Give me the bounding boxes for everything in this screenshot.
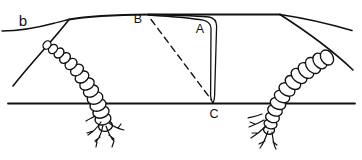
point-label-c: C [209,107,218,121]
figure-panel: b B A C [0,0,362,160]
panel-label: b [19,12,27,29]
point-label-a: A [196,22,205,36]
background [0,0,362,160]
diagram-svg: b B A C [0,0,362,160]
point-label-b: B [134,12,142,26]
